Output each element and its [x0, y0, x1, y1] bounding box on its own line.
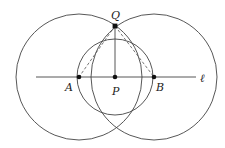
label-b: B — [155, 81, 164, 94]
segment-qa-dashed — [79, 26, 115, 77]
point-a — [77, 75, 82, 80]
point-b — [152, 75, 157, 80]
label-p: P — [111, 85, 120, 98]
label-q: Q — [111, 9, 120, 22]
label-a: A — [64, 81, 73, 94]
geometry-diagram: Q A P B ℓ — [0, 0, 225, 148]
point-q — [113, 24, 118, 29]
label-line-l: ℓ — [200, 72, 205, 85]
point-p — [113, 75, 118, 80]
segment-qb-dashed — [115, 26, 154, 77]
